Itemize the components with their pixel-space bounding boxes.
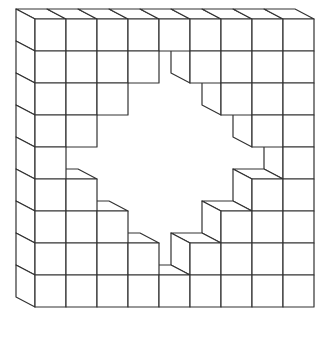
cube-front-face <box>97 275 128 307</box>
cube-front-face <box>97 19 128 51</box>
cube-front-face <box>97 83 128 115</box>
cube-front-face <box>221 19 252 51</box>
cube-front-face <box>97 51 128 83</box>
cube-front-face <box>221 83 252 115</box>
cube-front-face <box>97 243 128 275</box>
cube-front-face <box>283 275 314 307</box>
cube-front-face <box>252 211 283 243</box>
cube-front-face <box>35 51 66 83</box>
cube-front-face <box>221 51 252 83</box>
cube-front-face <box>252 243 283 275</box>
cube-front-face <box>128 243 159 275</box>
cube-front-face <box>252 19 283 51</box>
cube-front-face <box>283 211 314 243</box>
cube-front-face <box>66 243 97 275</box>
cube-front-face <box>66 19 97 51</box>
cube-front-face <box>283 19 314 51</box>
cube-front-face <box>35 243 66 275</box>
cube-front-face <box>283 179 314 211</box>
cube-front-face <box>283 51 314 83</box>
cube-front-face <box>128 275 159 307</box>
cube-front-face <box>35 211 66 243</box>
cube-front-face <box>128 19 159 51</box>
cube-front-face <box>35 19 66 51</box>
cube-front-face <box>252 179 283 211</box>
cube-front-face <box>252 115 283 147</box>
cube-wall-figure <box>0 0 332 341</box>
cube-front-face <box>159 19 190 51</box>
cube-front-face <box>221 211 252 243</box>
cube-front-face <box>190 243 221 275</box>
cube-front-face <box>252 275 283 307</box>
cube-front-face <box>97 211 128 243</box>
cube-front-face <box>66 51 97 83</box>
cube-front-face <box>35 179 66 211</box>
cube-wall-drawing <box>0 0 332 341</box>
cube-front-face <box>283 243 314 275</box>
cube-front-face <box>252 83 283 115</box>
cube-front-face <box>221 275 252 307</box>
cube-front-face <box>66 115 97 147</box>
cube-front-face <box>35 115 66 147</box>
cube-front-face <box>35 275 66 307</box>
cube-front-face <box>66 83 97 115</box>
cube-front-face <box>190 275 221 307</box>
cube-front-face <box>221 243 252 275</box>
cube-front-face <box>128 51 159 83</box>
cube-front-face <box>66 211 97 243</box>
cube-front-face <box>66 275 97 307</box>
cube-front-face <box>283 115 314 147</box>
cube-front-face <box>159 275 190 307</box>
cube-front-face <box>35 147 66 179</box>
cube-front-face <box>252 51 283 83</box>
cube-front-face <box>283 83 314 115</box>
cube-front-face <box>283 147 314 179</box>
cube-front-face <box>66 179 97 211</box>
cube-front-face <box>190 19 221 51</box>
cube-front-face <box>190 51 221 83</box>
cube-front-face <box>35 83 66 115</box>
